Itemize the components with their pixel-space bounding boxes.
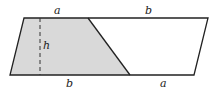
label-bottom-a: a [160, 77, 167, 90]
label-bottom-b: b [66, 77, 73, 90]
label-top-a: a [54, 4, 61, 17]
parallelogram-diagram: a b h b a [0, 0, 220, 93]
label-height-h: h [43, 39, 50, 52]
label-top-b: b [145, 4, 152, 17]
shaded-trapezoid [10, 18, 130, 75]
